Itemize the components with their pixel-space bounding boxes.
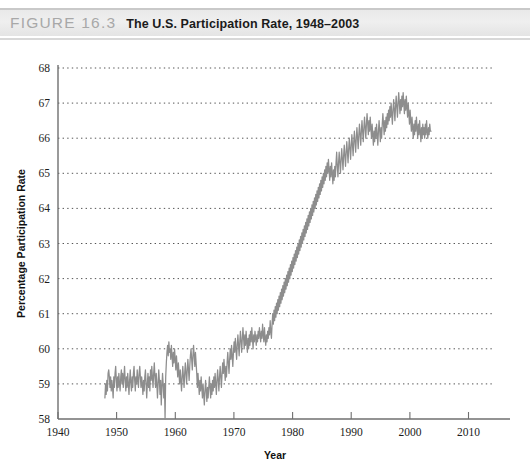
participation-rate-line (105, 93, 431, 419)
y-tick-66: 66 (39, 132, 51, 144)
y-tick-61: 61 (39, 308, 51, 320)
y-tick-67: 67 (39, 97, 51, 109)
figure-header-text: FIGURE 16.3 The U.S. Participation Rate,… (10, 14, 359, 32)
figure-header-band: FIGURE 16.3 The U.S. Participation Rate,… (0, 8, 530, 36)
x-tick-1940: 1940 (47, 426, 70, 438)
x-tick-1980: 1980 (281, 426, 304, 438)
y-tick-65: 65 (39, 167, 51, 179)
y-axis-title: Percentage Participation Rate (15, 169, 27, 318)
x-tick-2010: 2010 (457, 426, 480, 438)
header-divider (0, 38, 530, 40)
x-axis-title: Year (264, 449, 286, 461)
x-axis (58, 412, 510, 419)
x-tick-1990: 1990 (340, 426, 363, 438)
y-tick-58: 58 (39, 413, 51, 425)
y-tick-68: 68 (39, 62, 51, 74)
y-tick-60: 60 (39, 343, 51, 355)
figure-container: FIGURE 16.3 The U.S. Participation Rate,… (0, 0, 530, 463)
y-tick-63: 63 (39, 238, 51, 250)
participation-rate-line-chart: 5859606162636465666768 19401950196019701… (0, 44, 530, 463)
x-tick-1960: 1960 (164, 426, 187, 438)
y-tick-59: 59 (39, 378, 51, 390)
chart-plot-area: 5859606162636465666768 19401950196019701… (0, 44, 530, 463)
y-tick-labels: 5859606162636465666768 (39, 62, 51, 425)
x-tick-labels: 19401950196019701980199020002010 (47, 426, 481, 438)
data-series-line (105, 93, 431, 419)
figure-title: The U.S. Participation Rate, 1948–2003 (126, 17, 359, 31)
y-tick-62: 62 (39, 273, 51, 285)
x-tick-1970: 1970 (222, 426, 245, 438)
x-tick-2000: 2000 (398, 426, 421, 438)
y-tick-64: 64 (39, 202, 51, 214)
figure-number-label: FIGURE 16.3 (10, 14, 116, 32)
x-tick-1950: 1950 (105, 426, 128, 438)
gridlines (58, 68, 492, 384)
